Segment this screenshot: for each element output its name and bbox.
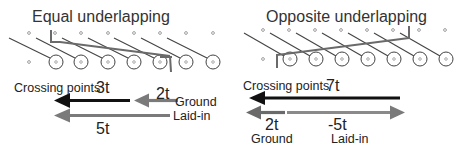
right-ground-value: 2t bbox=[265, 117, 278, 133]
right-crossing-label: Crossing points bbox=[243, 80, 329, 93]
right-crossing-arrowhead bbox=[249, 91, 265, 105]
left-laidin-label: Laid-in bbox=[173, 110, 211, 123]
left-loops bbox=[49, 55, 220, 69]
left-laidin-arrowhead bbox=[54, 109, 70, 123]
left-ground-label: Ground bbox=[175, 96, 217, 109]
left-panel-title: Equal underlapping bbox=[32, 9, 170, 25]
left-crossing-label: Crossing points bbox=[14, 82, 100, 95]
left-stitch-pattern bbox=[9, 30, 220, 72]
right-laidin-arrowhead bbox=[390, 106, 405, 120]
right-stitch-pattern bbox=[244, 26, 453, 68]
right-ground-arrowhead bbox=[246, 106, 261, 120]
left-laidin-value: 5t bbox=[96, 121, 109, 137]
right-loops bbox=[283, 52, 453, 66]
left-crossing-arrowhead bbox=[54, 93, 70, 108]
right-crossing-value: 7t bbox=[326, 78, 339, 94]
left-top-needle-dots bbox=[28, 32, 215, 35]
right-ground-threads bbox=[244, 33, 440, 56]
right-ground-label: Ground bbox=[251, 133, 293, 146]
left-crossing-value: 3t bbox=[96, 80, 109, 96]
left-ground-arrowhead bbox=[134, 94, 149, 108]
right-top-needle-dots bbox=[262, 29, 447, 32]
right-laidin-value: -5t bbox=[328, 117, 347, 133]
left-ground-value: 2t bbox=[156, 86, 169, 102]
right-panel-title: Opposite underlapping bbox=[266, 9, 427, 25]
right-laidin-label: Laid-in bbox=[331, 133, 369, 146]
